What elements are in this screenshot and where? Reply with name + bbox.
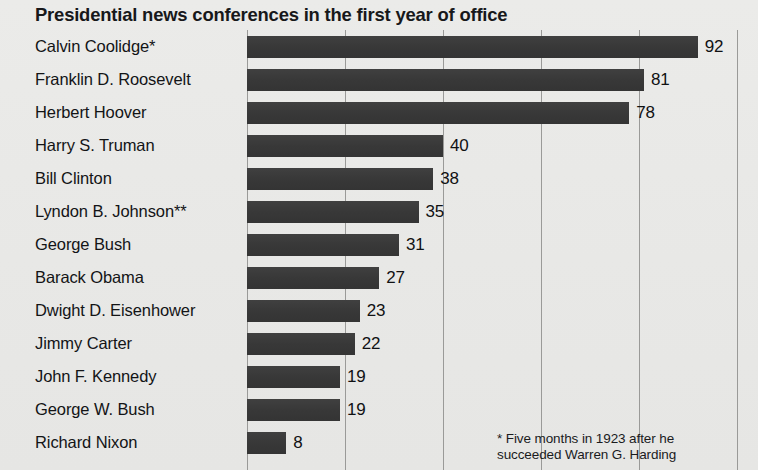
bar xyxy=(247,135,443,157)
bar xyxy=(247,201,419,223)
category-label: George W. Bush xyxy=(35,400,155,419)
bar xyxy=(247,234,399,256)
page-title: Presidential news conferences in the fir… xyxy=(35,4,507,26)
bar-row: Barack Obama27 xyxy=(0,261,758,294)
category-label: Franklin D. Roosevelt xyxy=(35,70,191,89)
bar-row: Calvin Coolidge*92 xyxy=(0,30,758,63)
bar-value-label: 19 xyxy=(347,366,366,386)
plot-area: Calvin Coolidge*92Franklin D. Roosevelt8… xyxy=(0,30,758,470)
top-divider xyxy=(0,0,758,1)
category-label: Calvin Coolidge* xyxy=(35,37,155,56)
bar-row: George Bush31 xyxy=(0,228,758,261)
category-label: Herbert Hoover xyxy=(35,103,146,122)
bar-value-label: 22 xyxy=(362,333,381,353)
bar-value-label: 23 xyxy=(367,300,386,320)
bar-row: George W. Bush19 xyxy=(0,393,758,426)
footnote-line-1: * Five months in 1923 after he xyxy=(497,431,747,447)
category-label: John F. Kennedy xyxy=(35,367,156,386)
footnote: * Five months in 1923 after he succeeded… xyxy=(497,431,747,463)
bar xyxy=(247,300,360,322)
bar-row: Lyndon B. Johnson**35 xyxy=(0,195,758,228)
bar-value-label: 38 xyxy=(440,168,459,188)
bar-row: Dwight D. Eisenhower23 xyxy=(0,294,758,327)
category-label: Richard Nixon xyxy=(35,433,137,452)
bar-value-label: 81 xyxy=(651,69,670,89)
bar-value-label: 92 xyxy=(705,36,724,56)
bar-value-label: 8 xyxy=(293,432,302,452)
bar xyxy=(247,432,286,454)
category-label: Dwight D. Eisenhower xyxy=(35,301,195,320)
bar xyxy=(247,69,644,91)
bar xyxy=(247,36,698,58)
bar xyxy=(247,366,340,388)
bar-row: Jimmy Carter22 xyxy=(0,327,758,360)
bar-row: Herbert Hoover78 xyxy=(0,96,758,129)
bar-value-label: 40 xyxy=(450,135,469,155)
bar-row: Bill Clinton38 xyxy=(0,162,758,195)
chart-figure: Presidential news conferences in the fir… xyxy=(0,0,758,470)
bar xyxy=(247,399,340,421)
category-label: Barack Obama xyxy=(35,268,144,287)
category-label: Bill Clinton xyxy=(35,169,112,188)
category-label: George Bush xyxy=(35,235,131,254)
bar xyxy=(247,267,379,289)
bar xyxy=(247,333,355,355)
bar-row: John F. Kennedy19 xyxy=(0,360,758,393)
bar-value-label: 19 xyxy=(347,399,366,419)
bar-row: Franklin D. Roosevelt81 xyxy=(0,63,758,96)
bar xyxy=(247,168,433,190)
bar xyxy=(247,102,629,124)
bar-value-label: 35 xyxy=(426,201,445,221)
category-label: Lyndon B. Johnson** xyxy=(35,202,187,221)
bar-row: Harry S. Truman40 xyxy=(0,129,758,162)
bar-value-label: 31 xyxy=(406,234,425,254)
category-label: Harry S. Truman xyxy=(35,136,155,155)
category-label: Jimmy Carter xyxy=(35,334,132,353)
footnote-line-2: succeeded Warren G. Harding xyxy=(497,447,747,463)
bar-value-label: 27 xyxy=(386,267,405,287)
bar-value-label: 78 xyxy=(636,102,655,122)
